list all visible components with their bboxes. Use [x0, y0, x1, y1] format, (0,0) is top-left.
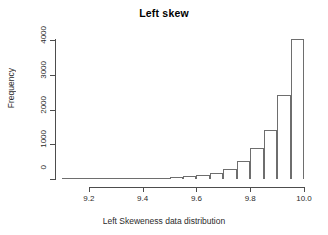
- y-tick-label: 0: [39, 165, 48, 169]
- y-tick-label: 4000: [39, 26, 48, 44]
- x-tick-label: 9.6: [191, 194, 202, 203]
- plot-area: [56, 36, 308, 181]
- chart-title: Left skew: [0, 7, 328, 19]
- x-axis-title: Left Skeweness data distribution: [0, 216, 328, 226]
- y-tick-label-wrap: 1000: [28, 130, 48, 158]
- histogram-bar: [250, 148, 263, 179]
- x-tick-label: 9.4: [137, 194, 148, 203]
- x-tick-mark: [250, 187, 251, 192]
- histogram-bar: [143, 178, 156, 179]
- y-tick-mark: [50, 75, 55, 76]
- y-tick-label: 2000: [39, 96, 48, 114]
- y-tick-label-wrap: 4000: [28, 26, 48, 54]
- histogram-bar: [116, 178, 129, 179]
- histogram-bar: [237, 161, 250, 179]
- histogram-bar: [170, 177, 183, 179]
- histogram-bars: [56, 36, 308, 181]
- x-tick-mark: [143, 187, 144, 192]
- y-tick-mark: [50, 40, 55, 41]
- x-tick-label: 9.2: [83, 194, 94, 203]
- histogram-bar: [102, 178, 115, 179]
- y-tick-label-wrap: 0: [28, 165, 48, 193]
- histogram-bar: [264, 130, 277, 179]
- x-tick-mark: [304, 187, 305, 192]
- x-tick-mark: [89, 187, 90, 192]
- histogram-bar: [210, 173, 223, 179]
- histogram-bar: [291, 39, 304, 179]
- y-tick-label: 1000: [39, 130, 48, 148]
- histogram-bar: [62, 178, 75, 179]
- histogram-bar: [196, 175, 209, 179]
- histogram-bar: [156, 178, 169, 179]
- y-tick-label: 3000: [39, 61, 48, 79]
- y-tick-label-wrap: 3000: [28, 61, 48, 89]
- histogram-bar: [89, 178, 102, 179]
- histogram-bar: [183, 176, 196, 179]
- histogram-bar: [75, 178, 88, 179]
- x-tick-mark: [196, 187, 197, 192]
- x-tick-label: 9.8: [245, 194, 256, 203]
- histogram-bar: [277, 95, 290, 179]
- histogram-bar: [129, 178, 142, 179]
- y-tick-mark: [50, 110, 55, 111]
- x-tick-label: 10.0: [296, 194, 312, 203]
- y-tick-mark: [50, 179, 55, 180]
- histogram-plot: Left skew Frequency 01000200030004000 9.…: [0, 0, 328, 235]
- y-tick-mark: [50, 144, 55, 145]
- histogram-bar: [223, 169, 236, 179]
- y-axis-title: Frequency: [6, 68, 16, 108]
- y-tick-label-wrap: 2000: [28, 96, 48, 124]
